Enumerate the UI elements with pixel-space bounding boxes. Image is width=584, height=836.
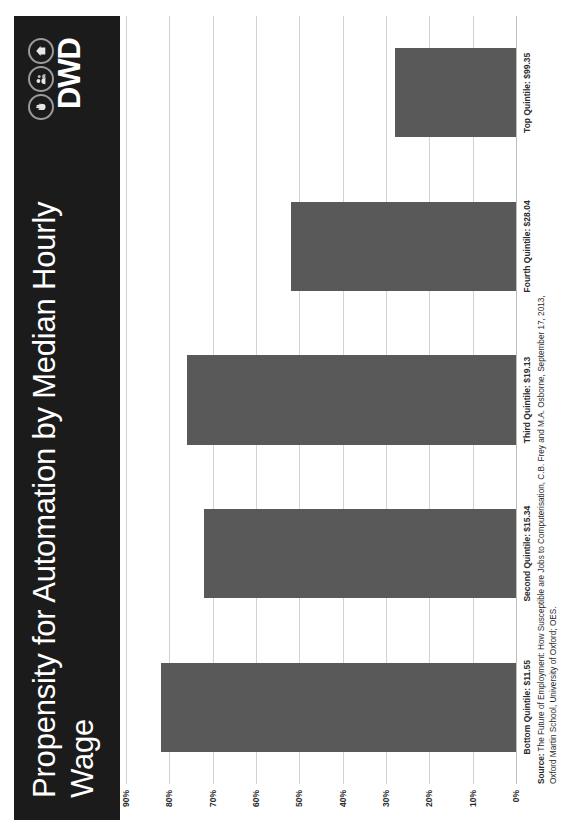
y-tick-label: 60%: [251, 790, 261, 807]
bar-series: [126, 16, 516, 784]
gridline-0: [516, 16, 517, 784]
bar[interactable]: [395, 48, 516, 137]
y-tick-label: 0%: [511, 790, 521, 802]
y-tick-label: 70%: [208, 790, 218, 807]
home-circle-icon: [28, 38, 54, 64]
logo-icon-row: [28, 38, 54, 120]
title-banner: Propensity for Automation by Median Hour…: [14, 16, 120, 820]
page-title: Propensity for Automation by Median Hour…: [22, 188, 102, 798]
people-circle-icon: [28, 66, 54, 92]
y-axis-tick-labels: 0%10%20%30%40%50%60%70%80%90%: [126, 786, 516, 820]
bar[interactable]: [161, 663, 516, 752]
source-label: Source:: [537, 754, 546, 784]
bar[interactable]: [291, 202, 516, 291]
dwd-logo: DWD: [22, 38, 84, 120]
y-tick-label: 50%: [294, 790, 304, 807]
y-tick-label: 30%: [381, 790, 391, 807]
bar[interactable]: [204, 509, 516, 598]
bar-column[interactable]: [126, 630, 516, 784]
bar-column[interactable]: [126, 170, 516, 324]
bar-column[interactable]: [126, 16, 516, 170]
source-line-1: Source: The Future of Employment: How Su…: [536, 14, 548, 784]
source-text-1: The Future of Employment: How Susceptibl…: [537, 295, 546, 753]
y-tick-label: 10%: [468, 790, 478, 807]
hand-circle-icon: [28, 94, 54, 120]
y-tick-label: 90%: [121, 790, 131, 807]
y-tick-label: 40%: [338, 790, 348, 807]
source-line-2: Oxford Martin School, University of Oxfo…: [548, 14, 560, 784]
bar[interactable]: [187, 355, 516, 444]
bar-column[interactable]: [126, 477, 516, 631]
logo-wordmark: DWD: [55, 38, 84, 109]
y-tick-label: 20%: [424, 790, 434, 807]
plot-canvas: [126, 16, 516, 784]
y-tick-label: 80%: [164, 790, 174, 807]
poster-canvas: Propensity for Automation by Median Hour…: [0, 0, 584, 836]
bar-column[interactable]: [126, 323, 516, 477]
source-note: Source: The Future of Employment: How Su…: [536, 14, 559, 784]
chart-area: 0%10%20%30%40%50%60%70%80%90% Bottom Qui…: [126, 16, 516, 820]
